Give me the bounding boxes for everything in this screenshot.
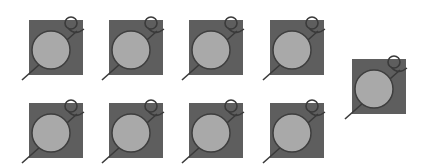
magnifier-pin-icon <box>101 12 173 84</box>
magnifier-pin-icon <box>262 12 334 84</box>
tile-5[interactable] <box>352 59 406 114</box>
magnifier-pin-icon <box>262 95 334 167</box>
tile-1[interactable] <box>29 20 83 75</box>
magnifier-pin-icon <box>181 12 253 84</box>
tile-8[interactable] <box>189 103 243 158</box>
tile-9[interactable] <box>270 103 324 158</box>
magnifier-pin-icon <box>21 95 93 167</box>
magnifier-pin-icon <box>181 95 253 167</box>
tile-4[interactable] <box>270 20 324 75</box>
tile-6[interactable] <box>29 103 83 158</box>
magnifier-pin-icon <box>101 95 173 167</box>
tile-7[interactable] <box>109 103 163 158</box>
magnifier-pin-icon <box>344 51 416 123</box>
magnifier-pin-icon <box>21 12 93 84</box>
tile-3[interactable] <box>189 20 243 75</box>
tile-2[interactable] <box>109 20 163 75</box>
